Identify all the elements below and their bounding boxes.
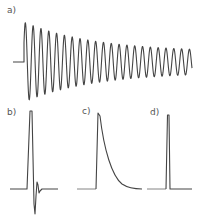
- panel-b-label: b): [7, 107, 16, 117]
- panel-d-trace: [166, 115, 192, 189]
- panel-b-trace: [10, 111, 58, 214]
- panel-c-trace: [96, 113, 142, 189]
- panel-d: d): [147, 107, 192, 189]
- panel-a-trace: [13, 23, 192, 100]
- panel-c-label: c): [82, 106, 90, 116]
- panel-a: a): [7, 5, 192, 100]
- panel-a-label: a): [7, 5, 16, 15]
- waveform-figure: a) b) c) d): [0, 0, 197, 218]
- panel-b: b): [7, 107, 58, 214]
- panel-d-label: d): [150, 107, 159, 117]
- panel-c: c): [77, 106, 142, 189]
